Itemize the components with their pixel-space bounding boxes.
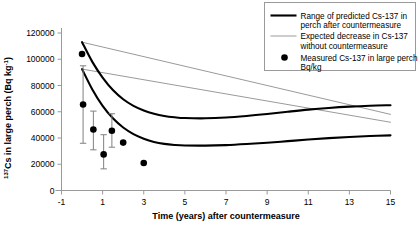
measured-data-point xyxy=(120,139,127,146)
legend-item-label-line2: perch after countermeasure xyxy=(301,21,402,30)
legend-item-label-line1: Measured Cs-137 in large perch xyxy=(301,54,418,63)
legend-item-label-line1: Range of predicted Cs-137 in xyxy=(301,12,408,21)
legend-item-label-line1: Expected decrease in Cs-137 xyxy=(301,32,409,41)
y-tick-label: 60000 xyxy=(31,107,55,117)
chart-legend: Range of predicted Cs-137 inperch after … xyxy=(265,3,418,73)
x-tick-label: 11 xyxy=(304,197,313,207)
measured-data-point xyxy=(90,126,97,133)
measured-data-point xyxy=(100,151,107,158)
legend-item-label-line2: Bq/kg xyxy=(301,63,322,72)
y-tick-label: 0 xyxy=(50,186,55,196)
measured-data-point xyxy=(79,51,86,58)
x-tick-label: -1 xyxy=(58,197,66,207)
y-axis-title: 137Cs in large perch (Bq kg-1) xyxy=(3,57,13,179)
y-axis-title-close: ) xyxy=(3,57,13,60)
x-axis-title: Time (years) after countermeasure xyxy=(152,211,299,221)
x-tick-label: 13 xyxy=(345,197,355,207)
y-tick-label: 80000 xyxy=(31,81,55,91)
svg-text:137Cs in large perch (Bq kg-1): 137Cs in large perch (Bq kg-1) xyxy=(3,57,13,179)
legend-item-label-line2: without countermeasure xyxy=(300,42,389,51)
x-tick-label: 1 xyxy=(100,197,105,207)
y-tick-label: 120000 xyxy=(26,28,55,38)
legend-marker-dot xyxy=(281,54,288,61)
x-tick-label: 15 xyxy=(386,197,396,207)
measured-data-point xyxy=(140,160,147,167)
chart-canvas: 020000400006000080000100000120000 -11357… xyxy=(0,0,420,235)
x-tick-label: 5 xyxy=(183,197,188,207)
x-tick-label: 9 xyxy=(265,197,270,207)
y-axis-title-main: Cs in large perch (Bq kg xyxy=(3,65,13,169)
x-tick-label: 3 xyxy=(141,197,146,207)
chart-figure: 020000400006000080000100000120000 -11357… xyxy=(0,0,420,235)
y-tick-label: 40000 xyxy=(31,133,55,143)
x-tick-label: 7 xyxy=(224,197,229,207)
measured-data-point xyxy=(109,127,116,134)
y-tick-label: 100000 xyxy=(26,54,55,64)
measured-data-point xyxy=(80,101,87,108)
y-tick-label: 20000 xyxy=(31,159,55,169)
